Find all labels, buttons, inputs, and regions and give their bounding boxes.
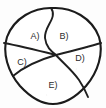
region-label-e: E)	[49, 80, 58, 90]
region-label-d: D)	[75, 53, 85, 63]
figure-container: A) B) C) D) E)	[0, 0, 106, 108]
geometry-diagram: A) B) C) D) E)	[0, 0, 106, 108]
region-label-b: B)	[60, 31, 69, 41]
region-label-a: A)	[31, 31, 40, 41]
region-label-c: C)	[17, 57, 27, 67]
